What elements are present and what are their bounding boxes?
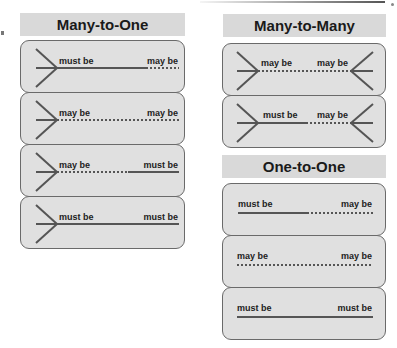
many-to-one-row-2: may be may be <box>20 92 185 145</box>
relationship-line-icon <box>223 184 387 237</box>
many-to-one-row-4: must be must be <box>20 196 185 249</box>
relationship-line-icon <box>223 96 387 149</box>
right-cardinality-label: may be <box>317 110 348 120</box>
right-cardinality-label: must be <box>143 160 178 170</box>
relationship-line-icon <box>223 236 387 289</box>
right-cardinality-label: must be <box>337 303 372 313</box>
left-cardinality-label: must be <box>59 212 94 222</box>
edge-mark <box>1 31 4 35</box>
left-cardinality-label: may be <box>59 160 90 170</box>
relationship-line-icon <box>21 41 186 94</box>
relationship-line-icon <box>21 197 186 250</box>
relationship-line-icon <box>21 145 186 198</box>
one-to-one-row-3: must be must be <box>222 287 386 340</box>
one-to-one-row-1: must be may be <box>222 183 386 236</box>
one-to-one-header: One-to-One <box>222 155 386 178</box>
left-cardinality-label: must be <box>237 303 272 313</box>
relationship-line-icon <box>223 288 387 341</box>
many-to-many-header: Many-to-Many <box>223 14 386 37</box>
left-cardinality-label: may be <box>261 58 292 68</box>
left-cardinality-label: may be <box>59 108 90 118</box>
one-to-one-row-2: may be may be <box>222 235 386 288</box>
many-to-one-row-3: may be must be <box>20 144 185 197</box>
many-to-many-row-2: must be may be <box>222 95 386 148</box>
right-cardinality-label: must be <box>143 212 178 222</box>
many-to-one-header: Many-to-One <box>20 13 185 36</box>
right-cardinality-label: may be <box>341 199 372 209</box>
left-cardinality-label: must be <box>59 56 94 66</box>
right-cardinality-label: may be <box>341 251 372 261</box>
right-cardinality-label: may be <box>147 108 178 118</box>
left-cardinality-label: must be <box>238 199 273 209</box>
relationship-line-icon <box>21 93 186 146</box>
right-cardinality-label: may be <box>317 58 348 68</box>
right-cardinality-label: may be <box>147 56 178 66</box>
left-cardinality-label: may be <box>237 251 268 261</box>
relationship-line-icon <box>223 44 387 97</box>
many-to-many-row-1: may be may be <box>222 43 386 96</box>
left-cardinality-label: must be <box>263 110 298 120</box>
corner-mark <box>391 3 394 6</box>
many-to-one-row-1: must be may be <box>20 40 185 93</box>
top-border-line <box>200 1 385 3</box>
